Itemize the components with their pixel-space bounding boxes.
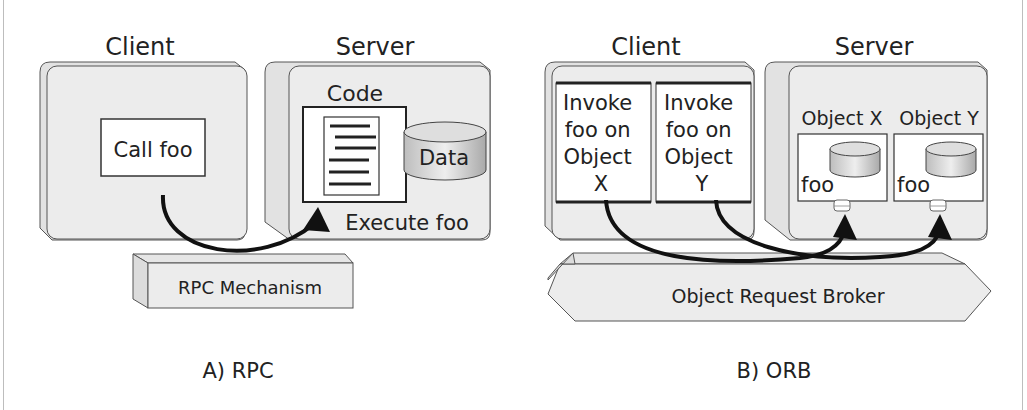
rpc-caption: A) RPC [202, 359, 273, 383]
object-y-title: Object Y [899, 107, 979, 129]
data-label: Data [419, 146, 469, 170]
diagram-canvas: Client Call foo Server Code [0, 0, 1027, 410]
orb-label: Object Request Broker [671, 285, 884, 307]
object-x-port-icon [834, 200, 850, 211]
execute-foo-label: Execute foo [345, 211, 469, 235]
rpc-mechanism-label: RPC Mechanism [178, 277, 322, 298]
object-x-method: foo [801, 173, 834, 197]
orb-client-title: Client [611, 33, 680, 61]
code-label: Code [327, 81, 383, 106]
object-y-cylinder-icon [926, 142, 976, 177]
code-document-icon [324, 117, 379, 195]
object-y-method: foo [897, 173, 930, 197]
object-y-port-icon [930, 200, 946, 211]
rpc-server-title: Server [336, 33, 415, 61]
rpc-diagram: Client Call foo Server Code [40, 33, 490, 383]
orb-diagram: Client Invoke foo on Object X Invoke foo… [545, 33, 991, 383]
orb-server-title: Server [835, 33, 914, 61]
orb-caption: B) ORB [737, 359, 812, 383]
rpc-client-title: Client [105, 33, 174, 61]
object-x-cylinder-icon [830, 142, 880, 177]
object-x-title: Object X [802, 107, 883, 129]
call-foo-label: Call foo [114, 138, 193, 162]
